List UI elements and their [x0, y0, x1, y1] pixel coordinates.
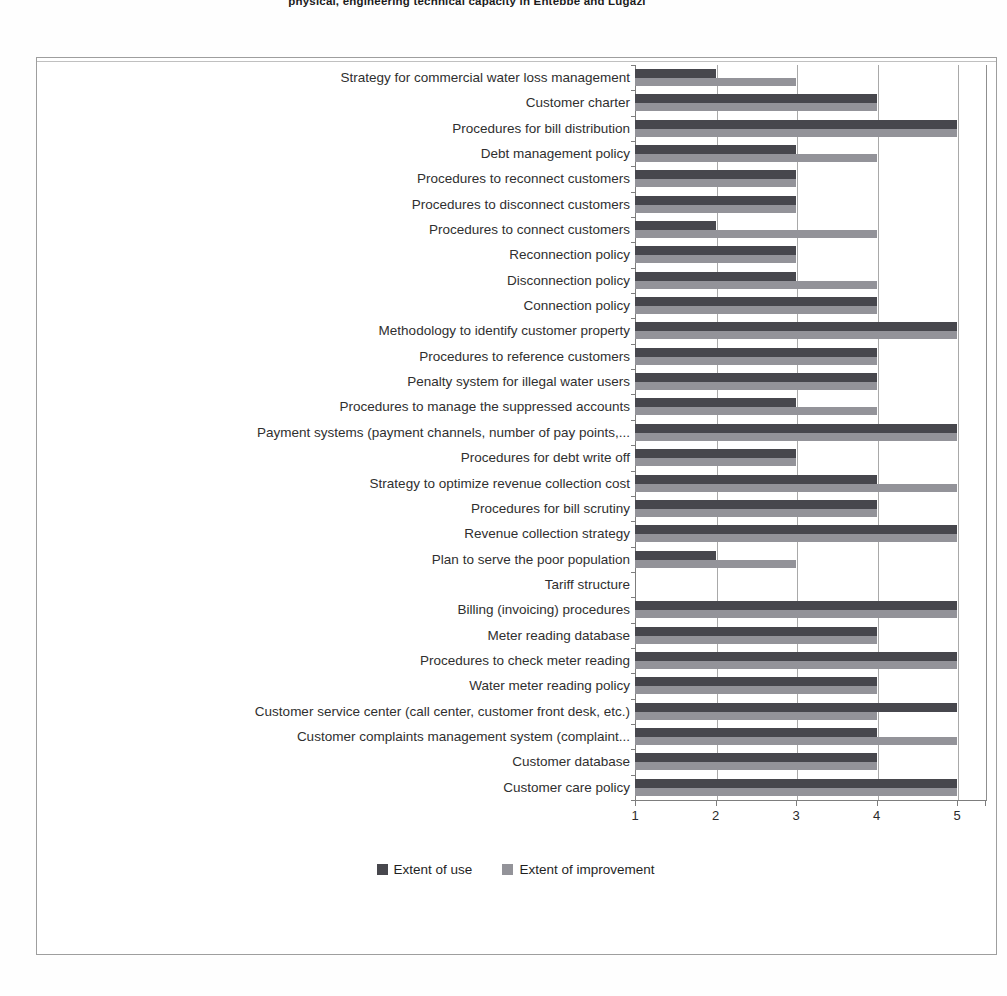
legend-swatch-use — [377, 864, 388, 875]
x-tick-label: 3 — [784, 808, 808, 823]
bar-use-7 — [635, 246, 796, 255]
bar-improve-6 — [635, 230, 877, 238]
category-row: Procedures for debt write off — [40, 445, 985, 470]
bar-group — [635, 623, 985, 648]
y-tick-mark — [631, 344, 635, 345]
y-tick-mark — [631, 648, 635, 649]
category-row: Customer care policy — [40, 775, 985, 800]
bar-group — [635, 547, 985, 572]
bar-improve-0 — [635, 78, 796, 86]
category-label: Strategy for commercial water loss manag… — [40, 65, 635, 90]
bar-group — [635, 445, 985, 470]
bar-group — [635, 597, 985, 622]
category-label: Procedures for debt write off — [40, 445, 635, 470]
bar-improve-19 — [635, 560, 796, 568]
bar-use-28 — [635, 779, 957, 788]
y-tick-mark — [631, 775, 635, 776]
bar-use-9 — [635, 297, 877, 306]
y-tick-mark — [631, 572, 635, 573]
bar-use-6 — [635, 221, 716, 230]
y-tick-mark — [631, 547, 635, 548]
bar-improve-25 — [635, 712, 877, 720]
chart-legend: Extent of use Extent of improvement — [36, 862, 995, 877]
y-tick-mark — [631, 496, 635, 497]
category-row: Procedures for bill scrutiny — [40, 496, 985, 521]
category-label: Connection policy — [40, 293, 635, 318]
bar-improve-26 — [635, 737, 957, 745]
bar-use-12 — [635, 373, 877, 382]
category-label: Tariff structure — [40, 572, 635, 597]
bar-use-22 — [635, 627, 877, 636]
bar-improve-3 — [635, 154, 877, 162]
bar-group — [635, 116, 985, 141]
bar-improve-7 — [635, 255, 796, 263]
category-row: Procedures for bill distribution — [40, 116, 985, 141]
y-tick-mark — [631, 445, 635, 446]
y-tick-mark — [631, 217, 635, 218]
bar-group — [635, 369, 985, 394]
bar-group — [635, 673, 985, 698]
y-tick-mark — [631, 724, 635, 725]
bar-group — [635, 65, 985, 90]
category-row: Debt management policy — [40, 141, 985, 166]
category-row: Procedures to manage the suppressed acco… — [40, 394, 985, 419]
category-row: Connection policy — [40, 293, 985, 318]
category-row: Penalty system for illegal water users — [40, 369, 985, 394]
category-row: Billing (invoicing) procedures — [40, 597, 985, 622]
y-tick-mark — [631, 116, 635, 117]
category-label: Procedures to reconnect customers — [40, 166, 635, 191]
bar-use-27 — [635, 753, 877, 762]
category-row: Disconnection policy — [40, 268, 985, 293]
bar-group — [635, 293, 985, 318]
bar-improve-27 — [635, 762, 877, 770]
bar-group — [635, 572, 985, 597]
category-row: Meter reading database — [40, 623, 985, 648]
x-tick-mark — [957, 800, 958, 806]
bar-use-4 — [635, 170, 796, 179]
bar-group — [635, 775, 985, 800]
bar-group — [635, 471, 985, 496]
bar-improve-13 — [635, 407, 877, 415]
bar-improve-15 — [635, 458, 796, 466]
category-label: Revenue collection strategy — [40, 521, 635, 546]
category-label: Procedures to reference customers — [40, 344, 635, 369]
bar-improve-2 — [635, 129, 957, 137]
bar-group — [635, 648, 985, 673]
bar-improve-4 — [635, 179, 796, 187]
category-label: Procedures to disconnect customers — [40, 192, 635, 217]
category-row: Plan to serve the poor population — [40, 547, 985, 572]
category-label: Procedures for bill distribution — [40, 116, 635, 141]
category-label: Customer complaints management system (c… — [40, 724, 635, 749]
y-tick-mark — [631, 166, 635, 167]
bar-improve-8 — [635, 281, 877, 289]
category-row: Strategy to optimize revenue collection … — [40, 471, 985, 496]
y-tick-mark — [631, 420, 635, 421]
y-tick-mark — [631, 242, 635, 243]
y-tick-mark — [631, 394, 635, 395]
bar-group — [635, 318, 985, 343]
bar-improve-9 — [635, 306, 877, 314]
legend-label-improvement: Extent of improvement — [519, 862, 654, 877]
bar-group — [635, 749, 985, 774]
x-axis: 12345 — [635, 800, 985, 826]
x-tick-mark — [635, 800, 636, 806]
category-row: Revenue collection strategy — [40, 521, 985, 546]
bar-group — [635, 90, 985, 115]
x-tick-mark — [877, 800, 878, 806]
bar-group — [635, 217, 985, 242]
category-label: Billing (invoicing) procedures — [40, 597, 635, 622]
y-tick-mark — [631, 268, 635, 269]
category-label: Customer care policy — [40, 775, 635, 800]
bar-improve-18 — [635, 534, 957, 542]
bar-group — [635, 496, 985, 521]
y-tick-mark — [631, 369, 635, 370]
bar-group — [635, 141, 985, 166]
category-label: Methodology to identify customer propert… — [40, 318, 635, 343]
category-row: Customer complaints management system (c… — [40, 724, 985, 749]
bar-improve-17 — [635, 509, 877, 517]
y-tick-mark — [631, 800, 635, 801]
bar-group — [635, 344, 985, 369]
category-label: Procedures for bill scrutiny — [40, 496, 635, 521]
bar-group — [635, 242, 985, 267]
category-label: Reconnection policy — [40, 242, 635, 267]
